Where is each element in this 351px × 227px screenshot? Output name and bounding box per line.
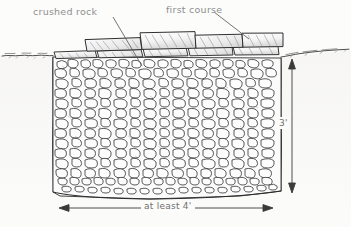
crushed-rock-label: crushed rock — [33, 6, 97, 17]
cross-section-figure — [0, 0, 351, 227]
depth-dimension-label: 3' — [278, 117, 289, 129]
diagram-canvas: crushed rock first course at least 4' 3' — [0, 0, 351, 227]
width-dimension-label: at least 4' — [141, 201, 195, 211]
first-course-label: first course — [166, 4, 222, 15]
